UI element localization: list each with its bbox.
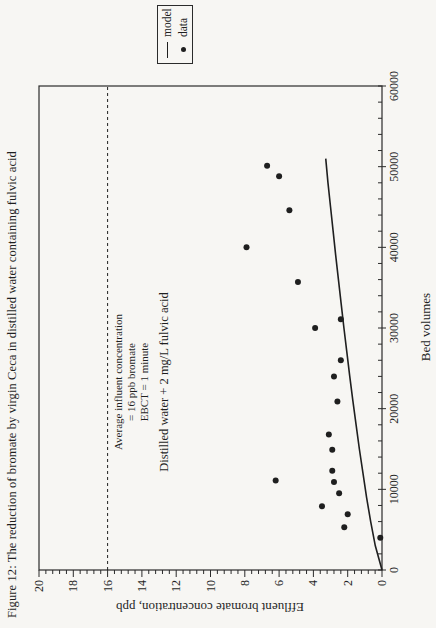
y-tick-label: 14 (135, 580, 149, 592)
model-line (326, 159, 382, 570)
annotation-line: EBCT = 1 minute (138, 286, 151, 478)
legend-box: model data (157, 5, 193, 64)
scanned-figure-page: Figure 12: The reduction of bromate by v… (0, 0, 436, 628)
annotation-line: Average influent concentration (112, 286, 125, 478)
data-point (295, 279, 301, 285)
x-tick-label: 50000 (387, 152, 401, 182)
chart-plot: 0246810121416182001000020000300004000050… (0, 0, 436, 628)
y-tick-label: 4 (306, 580, 320, 586)
legend-item-data: data (177, 6, 190, 59)
data-point (244, 244, 250, 250)
x-tick-label: 20000 (387, 394, 401, 424)
annotation-line: = 16 ppb bromate (125, 286, 138, 478)
y-axis-ticks: 02468101214161820 (32, 570, 389, 592)
y-tick-label: 16 (101, 580, 115, 592)
data-point (319, 503, 325, 509)
y-tick-label: 20 (32, 580, 46, 592)
data-point (377, 535, 383, 541)
data-dot-symbol (181, 41, 186, 59)
data-point (331, 373, 337, 379)
y-tick-label: 2 (341, 580, 355, 586)
data-point (338, 357, 344, 363)
x-axis-title: Bed volumes (418, 257, 434, 397)
data-point (341, 524, 347, 530)
data-point (336, 490, 342, 496)
data-points (244, 163, 384, 541)
data-point (329, 468, 335, 474)
figure-canvas: Figure 12: The reduction of bromate by v… (0, 0, 436, 628)
data-point (276, 173, 282, 179)
y-tick-label: 6 (272, 580, 286, 586)
data-point (264, 163, 270, 169)
y-tick-label: 12 (169, 580, 183, 592)
y-tick-label: 0 (375, 580, 389, 586)
model-line-symbol (167, 41, 168, 59)
x-tick-label: 60000 (387, 71, 401, 101)
legend-label-model: model (161, 8, 174, 37)
annotation-condition: Distilled water + 2 mg/L fulvic acid (158, 286, 171, 478)
data-point (326, 431, 332, 437)
data-point (286, 207, 292, 213)
x-tick-label: 30000 (387, 313, 401, 343)
legend-label-data: data (177, 18, 190, 37)
x-tick-label: 10000 (387, 474, 401, 504)
x-tick-label: 40000 (387, 232, 401, 262)
y-tick-label: 10 (204, 580, 218, 592)
data-point (334, 398, 340, 404)
legend-item-model: model (161, 6, 174, 59)
y-tick-label: 8 (238, 580, 252, 586)
data-point (312, 325, 318, 331)
data-point (329, 447, 335, 453)
annotation-block: Average influent concentration = 16 ppb … (112, 286, 171, 478)
plot-frame (39, 86, 382, 570)
data-point (345, 511, 351, 517)
x-tick-label: 0 (387, 567, 401, 573)
data-point (331, 479, 337, 485)
data-point (273, 477, 279, 483)
y-tick-label: 18 (66, 580, 80, 592)
y-axis-title: Effluent bromate concentration, ppb (90, 599, 330, 615)
